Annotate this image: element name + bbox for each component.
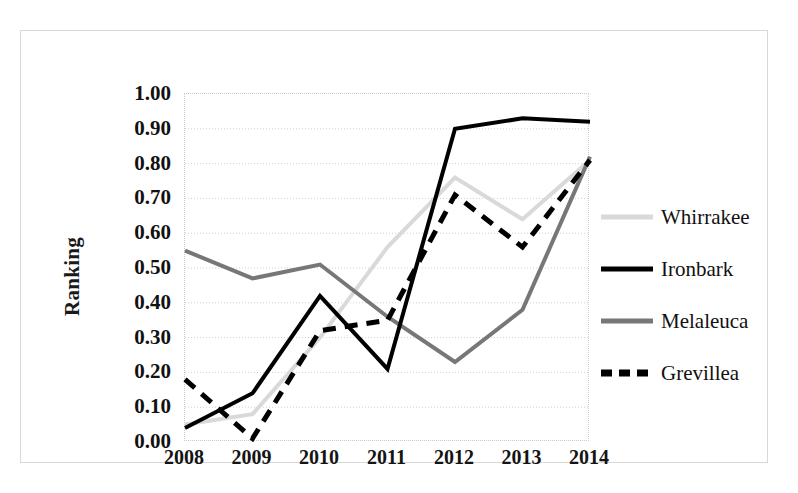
y-tick-label: 0.90: [134, 117, 171, 138]
y-axis-title: Ranking: [59, 206, 87, 346]
legend-label: Ironbark: [661, 257, 733, 282]
y-tick-label: 0.70: [134, 187, 171, 208]
legend-swatch-icon: [601, 314, 653, 328]
y-tick-label: 0.10: [134, 396, 171, 417]
series-line-melaleuca: [185, 157, 590, 362]
legend-swatch-icon: [601, 366, 653, 380]
y-tick-label: 0.50: [134, 257, 171, 278]
x-tick-label: 2011: [367, 447, 406, 467]
legend-label: Whirrakee: [661, 205, 750, 230]
x-tick-label: 2008: [164, 447, 204, 467]
y-tick-label: 0.40: [134, 291, 171, 312]
x-tick-label: 2009: [232, 447, 272, 467]
y-tick-label: 0.30: [134, 326, 171, 347]
legend-item-ironbark[interactable]: Ironbark: [601, 243, 781, 295]
x-axis-tick-labels: 2008200920102011201220132014: [184, 447, 589, 477]
legend-item-grevillea[interactable]: Grevillea: [601, 347, 781, 399]
chart-frame: Ranking 1.000.900.800.700.600.500.400.30…: [20, 30, 768, 463]
y-axis-tick-labels: 1.000.900.800.700.600.500.400.300.200.10…: [109, 93, 177, 441]
legend-item-whirrakee[interactable]: Whirrakee: [601, 191, 781, 243]
legend-swatch-icon: [601, 210, 653, 224]
legend-item-melaleuca[interactable]: Melaleuca: [601, 295, 781, 347]
y-tick-label: 0.20: [134, 361, 171, 382]
chart-legend: WhirrakeeIronbarkMelaleucaGrevillea: [601, 191, 781, 399]
y-axis-title-text: Ranking: [61, 236, 86, 315]
x-tick-label: 2012: [434, 447, 474, 467]
x-tick-label: 2014: [569, 447, 609, 467]
series-line-ironbark: [185, 118, 590, 428]
plot-area: [184, 93, 589, 441]
y-tick-label: 0.60: [134, 222, 171, 243]
y-tick-label: 0.80: [134, 152, 171, 173]
legend-swatch-icon: [601, 262, 653, 276]
legend-label: Grevillea: [661, 361, 739, 386]
plot-lines: [185, 94, 590, 442]
y-tick-label: 1.00: [134, 83, 171, 104]
legend-label: Melaleuca: [661, 309, 748, 334]
x-tick-label: 2013: [502, 447, 542, 467]
x-tick-label: 2010: [299, 447, 339, 467]
